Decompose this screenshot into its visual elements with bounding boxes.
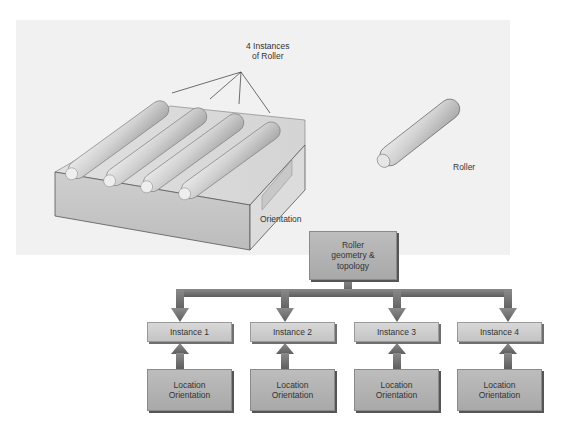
transform-box-2: Location Orientation xyxy=(250,369,335,411)
instance-label: Instance 3 xyxy=(377,327,416,337)
instance-box-4: Instance 4 xyxy=(457,322,542,342)
transform-label: Location Orientation xyxy=(272,380,314,400)
instance-label: Instance 1 xyxy=(170,327,209,337)
instance-label: Instance 2 xyxy=(273,327,312,337)
instance-box-2: Instance 2 xyxy=(250,322,335,342)
roller-geometry-topology-box: Roller geometry & topology xyxy=(309,231,397,280)
transform-label: Location Orientation xyxy=(479,380,521,400)
instance-box-1: Instance 1 xyxy=(147,322,232,342)
instances-callout-label: 4 Instances of Roller xyxy=(246,42,289,62)
transform-label: Location Orientation xyxy=(376,380,418,400)
instance-label: Instance 4 xyxy=(480,327,519,337)
instances-leader-lines xyxy=(172,72,270,113)
transform-box-3: Location Orientation xyxy=(354,369,439,411)
instance-box-3: Instance 3 xyxy=(354,322,439,342)
single-roller xyxy=(373,95,464,172)
roller-label: Roller xyxy=(453,163,475,173)
transform-box-1: Location Orientation xyxy=(147,369,232,411)
orientation-label: Orientation xyxy=(260,215,302,225)
transform-box-4: Location Orientation xyxy=(457,369,542,411)
root-label: Roller geometry & topology xyxy=(331,240,374,271)
transform-label: Location Orientation xyxy=(169,380,211,400)
